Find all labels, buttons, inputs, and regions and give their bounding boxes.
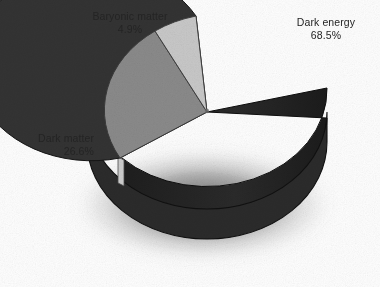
label-baryonic-matter-value: 4.9% (78, 23, 182, 36)
pie-center-point (205, 109, 209, 113)
label-dark-energy: Dark energy 68.5% (280, 16, 372, 41)
label-dark-matter-value: 26.6% (2, 145, 94, 158)
dark-matter-side-wall (118, 157, 124, 186)
label-dark-matter-name: Dark matter (2, 132, 94, 145)
label-dark-energy-value: 68.5% (280, 29, 372, 42)
label-baryonic-matter-name: Baryonic matter (78, 10, 182, 23)
label-dark-energy-name: Dark energy (280, 16, 372, 29)
label-baryonic-matter: Baryonic matter 4.9% (78, 10, 182, 35)
pie-chart-figure: Baryonic matter 4.9% Dark energy 68.5% D… (0, 0, 380, 287)
label-dark-matter: Dark matter 26.6% (2, 132, 94, 157)
